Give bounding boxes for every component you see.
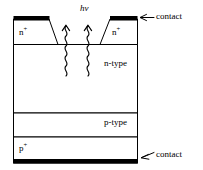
label-pplus: p+ [19,144,27,153]
label-nplus-left: n+ [19,28,27,37]
device-structure-svg [0,0,203,170]
nplus-left-superscript: + [24,25,28,32]
bottom-metal-contact [14,159,138,164]
label-contact-bottom: contact [156,150,182,159]
top-left-metal-contact [14,16,50,21]
label-ntype: n-type [104,59,127,68]
photodiode-cross-section-diagram: n+ n+ n-type p-type p+ hν contact contac… [0,0,203,170]
label-nplus-right: n+ [112,28,120,37]
annotation-arrows [140,14,154,159]
label-contact-top: contact [156,12,182,21]
label-ptype: p-type [104,118,127,127]
nplus-right-superscript: + [117,25,121,32]
label-photon-energy: hν [80,4,89,13]
pplus-superscript: + [24,141,28,148]
layer-ntype-region [14,45,138,114]
top-right-metal-contact [110,16,138,21]
